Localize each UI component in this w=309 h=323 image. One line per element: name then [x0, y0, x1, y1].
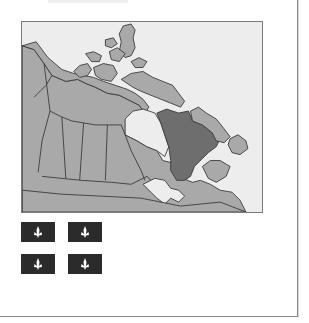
map-region-arctic-island — [131, 58, 147, 68]
map-region-arctic-island — [86, 52, 102, 62]
canada-map — [21, 21, 263, 213]
cut-off-text-fragment — [48, 0, 128, 3]
map-region-arctic-island — [105, 38, 117, 48]
map-region-newfoundland — [228, 135, 248, 155]
map-region-maritimes — [202, 161, 230, 183]
quebec-flag — [21, 222, 102, 274]
